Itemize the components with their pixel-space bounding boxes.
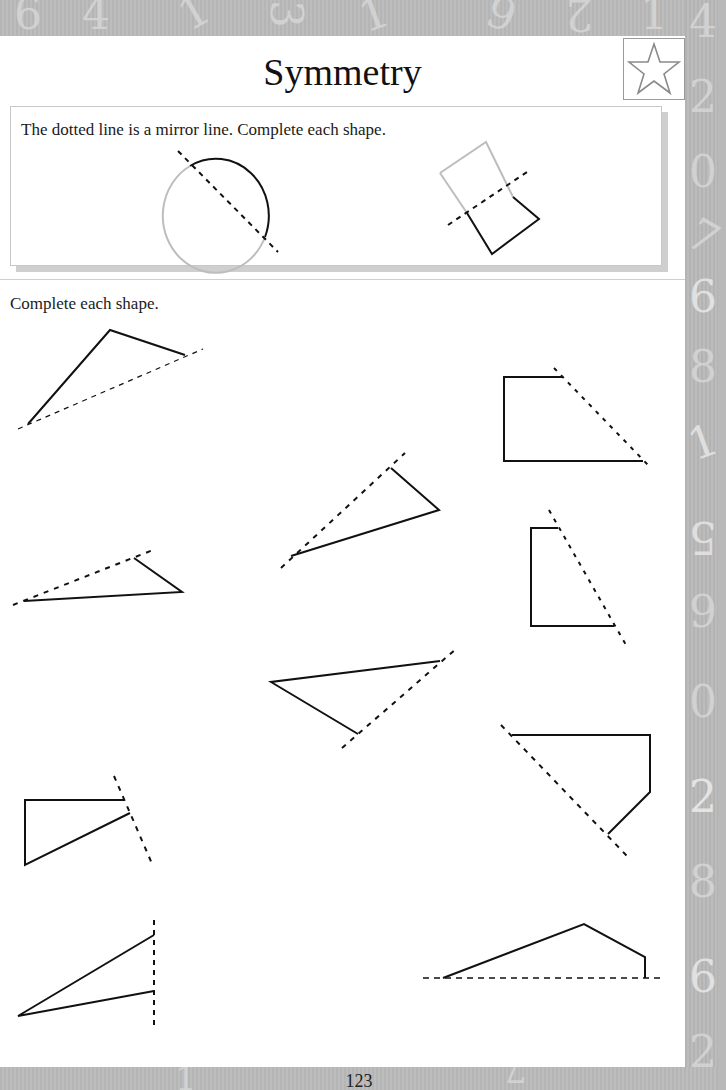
exercise-shape-5: [531, 510, 626, 645]
exercise-shape-3: [281, 453, 439, 568]
exercise-shape-9: [18, 920, 154, 1030]
page-number: 123: [0, 1071, 718, 1090]
exercise-shape-1: [18, 330, 203, 429]
exercise-shape-4: [13, 550, 182, 605]
exercise-shape-8: [25, 776, 153, 866]
exercise-shape-7: [501, 725, 650, 856]
example-circle: [163, 151, 278, 273]
example-rectangle: [440, 142, 539, 254]
exercise-shape-2: [504, 368, 650, 467]
exercise-shape-6: [271, 648, 457, 748]
exercise-shape-10: [423, 924, 663, 978]
